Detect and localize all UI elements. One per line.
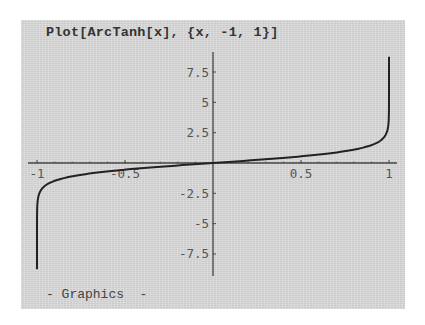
x-tick-label: -1 <box>29 166 44 181</box>
plot-area: -1-0.50.51-7.5-5-2.52.557.5 <box>0 0 425 325</box>
y-tick-label: -5 <box>194 216 209 231</box>
y-tick-label: 5 <box>201 95 209 110</box>
y-tick-label: 2.5 <box>186 125 209 140</box>
y-tick-label: -7.5 <box>179 246 209 261</box>
y-tick-label: 7.5 <box>186 65 209 80</box>
x-tick-label: 0.5 <box>290 166 313 181</box>
output-graphics-label: - Graphics - <box>46 287 147 302</box>
y-tick-label: -2.5 <box>179 186 209 201</box>
x-tick-label: 1 <box>385 166 393 181</box>
